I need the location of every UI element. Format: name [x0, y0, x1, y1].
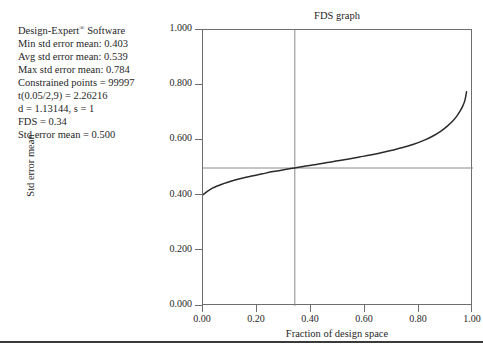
- y-axis-tick: [195, 139, 203, 140]
- x-axis-tick: [364, 305, 365, 312]
- x-axis-tick-label: 0.40: [287, 313, 333, 324]
- x-axis-tick: [256, 305, 257, 312]
- info-line-max-std-error: Max std error mean: 0.784: [18, 63, 183, 76]
- x-axis-tick: [418, 305, 419, 312]
- y-axis-tick: [195, 29, 203, 30]
- plot-area: [202, 29, 472, 305]
- y-axis-tick-label: 0.000: [150, 298, 192, 309]
- y-axis-tick-label: 1.000: [150, 22, 192, 33]
- y-axis-tick: [195, 84, 203, 85]
- x-axis-tick: [310, 305, 311, 312]
- chart-title: FDS graph: [202, 10, 472, 21]
- x-axis-tick: [471, 305, 472, 312]
- x-axis-title: Fraction of design space: [202, 328, 472, 339]
- y-axis-tick-label: 0.800: [150, 77, 192, 88]
- y-axis-title: Std error mean: [25, 116, 36, 216]
- info-line-fds: FDS = 0.34: [18, 115, 183, 128]
- y-axis-tick: [195, 249, 203, 250]
- fds-curve: [203, 92, 467, 195]
- y-axis-tick-label: 0.600: [150, 132, 192, 143]
- plot-svg: [203, 30, 473, 306]
- x-axis-tick-label: 0.60: [341, 313, 387, 324]
- y-axis-tick: [195, 194, 203, 195]
- info-line-min-std-error: Min std error mean: 0.403: [18, 37, 183, 50]
- info-line-d-and-s: d = 1.13144, s = 1: [18, 102, 183, 115]
- x-axis-tick-label: 0.00: [179, 313, 225, 324]
- x-axis-tick-label: 0.80: [395, 313, 441, 324]
- info-line-avg-std-error: Avg std error mean: 0.539: [18, 50, 183, 63]
- x-axis-tick-label: 1.00: [449, 313, 483, 324]
- x-axis-tick: [202, 305, 203, 312]
- fds-graph-page: Design-Expert® Software Min std error me…: [0, 0, 483, 353]
- info-line-t-value: t(0.05/2,9) = 2.26216: [18, 89, 183, 102]
- bottom-divider: [0, 341, 483, 343]
- y-axis-tick-label: 0.400: [150, 188, 192, 199]
- y-axis-tick-label: 0.200: [150, 243, 192, 254]
- x-axis-tick-label: 0.20: [233, 313, 279, 324]
